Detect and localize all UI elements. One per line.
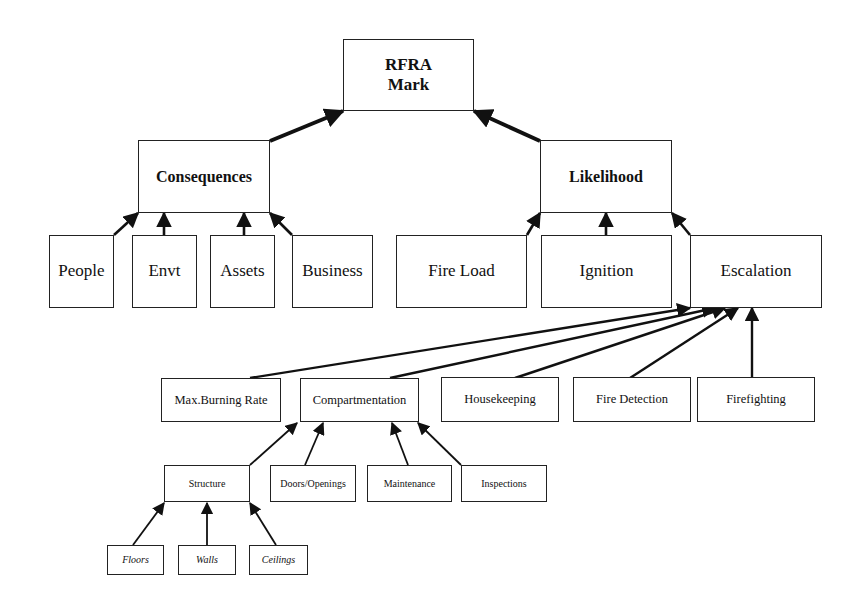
edge-likelihood-rfra [474,111,540,141]
node-doors-openings-label: Doors/Openings [280,478,346,490]
edge-floors-structure [133,503,164,545]
node-ignition-label: Ignition [580,261,634,281]
node-maintenance: Maintenance [367,465,452,502]
edge-compartmentation-escalation [390,308,715,378]
edge-maintenance-compartmentation [392,423,408,465]
edge-people-consequences [114,213,138,235]
node-housekeeping: Housekeeping [441,377,559,422]
node-structure: Structure [164,465,250,502]
node-firefighting: Firefighting [697,377,815,422]
edge-escalation-likelihood [672,213,690,235]
node-fire-detection-label: Fire Detection [596,392,668,407]
node-rfra-line2: Mark [388,75,430,95]
node-fire-load-label: Fire Load [428,261,495,281]
node-likelihood: Likelihood [540,140,672,213]
node-likelihood-label: Likelihood [569,167,643,186]
edge-ceilings-structure [250,503,276,545]
edge-firedetection-escalation [630,308,738,378]
node-business-label: Business [302,261,362,281]
node-ceilings: Ceilings [249,545,308,575]
node-ignition: Ignition [541,235,672,308]
node-max-burning-rate-label: Max.Burning Rate [174,393,267,408]
node-compartmentation: Compartmentation [300,378,419,422]
node-rfra-line1: RFRA [385,55,432,75]
node-firefighting-label: Firefighting [726,392,786,407]
node-floors-label: Floors [122,554,149,566]
node-fire-load: Fire Load [396,235,527,308]
node-escalation-label: Escalation [721,261,792,281]
edge-business-consequences [270,213,292,235]
node-fire-detection: Fire Detection [573,377,691,422]
node-people-label: People [58,261,104,281]
node-assets-label: Assets [220,261,264,281]
node-walls-label: Walls [196,554,218,566]
node-assets: Assets [210,235,275,308]
edge-housekeeping-escalation [515,308,725,378]
edge-inspections-compartmentation [418,423,461,465]
node-structure-label: Structure [189,478,226,490]
node-consequences: Consequences [138,140,270,213]
node-compartmentation-label: Compartmentation [313,393,407,408]
node-ceilings-label: Ceilings [262,554,295,566]
node-max-burning-rate: Max.Burning Rate [161,378,281,422]
node-consequences-label: Consequences [156,167,252,186]
edge-maxburning-escalation [250,308,690,378]
node-walls: Walls [178,545,236,575]
node-envt: Envt [132,235,197,308]
node-housekeeping-label: Housekeeping [464,392,536,407]
edge-fireload-likelihood [527,213,540,235]
node-rfra-mark: RFRA Mark [343,39,474,111]
node-business: Business [292,235,373,308]
node-envt-label: Envt [148,261,180,281]
edge-doors-compartmentation [305,423,323,465]
node-escalation: Escalation [690,235,822,308]
node-maintenance-label: Maintenance [384,478,436,490]
edge-structure-compartmentation [250,423,297,465]
edge-consequences-rfra [270,111,343,141]
diagram-canvas: RFRA Mark Consequences Likelihood People… [0,0,865,609]
node-floors: Floors [107,545,164,575]
node-doors-openings: Doors/Openings [270,465,356,502]
node-people: People [49,235,114,308]
node-inspections-label: Inspections [481,478,527,490]
node-inspections: Inspections [461,465,547,502]
